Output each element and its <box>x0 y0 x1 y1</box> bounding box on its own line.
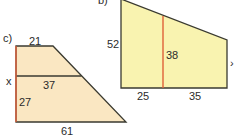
figure-c-label: c) <box>3 32 12 44</box>
geometry-figures: b) 52 38 25 35 › c) 21 x 37 27 61 <box>0 0 234 138</box>
figure-c-unknown-label: x <box>6 75 12 87</box>
figure-c-trapezoid <box>16 46 126 122</box>
figure-b-bottom-left-label: 25 <box>137 90 149 102</box>
figure-b-middle-height-label: 38 <box>166 49 178 61</box>
figure-b-left-side-label: 52 <box>107 38 119 50</box>
figure-b-label: b) <box>98 0 108 6</box>
figure-b-edge-mark: › <box>230 57 234 69</box>
figure-c-top-label: 21 <box>29 35 41 47</box>
figure-c-lower-height-label: 27 <box>19 96 31 108</box>
figure-b: b) 52 38 25 35 › <box>98 0 234 102</box>
figure-c-middle-label: 37 <box>43 79 55 91</box>
figure-b-trapezoid <box>121 0 227 88</box>
figure-b-bottom-right-label: 35 <box>189 90 201 102</box>
figure-c-bottom-label: 61 <box>61 125 73 137</box>
